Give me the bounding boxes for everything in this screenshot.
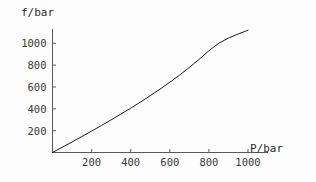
x-axis-title: P/bar (250, 142, 283, 155)
y-axis-ticks (53, 43, 57, 130)
y-tick-label: 800 (0, 59, 47, 71)
y-tick-label: 400 (0, 103, 47, 115)
x-tick-label: 200 (82, 156, 101, 168)
x-tick-label: 800 (199, 156, 218, 168)
fugacity-curve (53, 30, 249, 152)
y-tick-label: 200 (0, 125, 47, 137)
y-tick-label: 1000 (0, 37, 47, 49)
y-axis-title: f/bar (21, 6, 54, 19)
plot-figure: f/bar P/bar 2004006008001000 20040060080… (0, 0, 316, 182)
y-tick-label: 600 (0, 81, 47, 93)
x-tick-label: 1000 (235, 156, 260, 168)
x-tick-label: 400 (121, 156, 140, 168)
x-tick-label: 600 (160, 156, 179, 168)
x-axis-ticks (92, 149, 248, 153)
data-series-group (53, 30, 249, 152)
